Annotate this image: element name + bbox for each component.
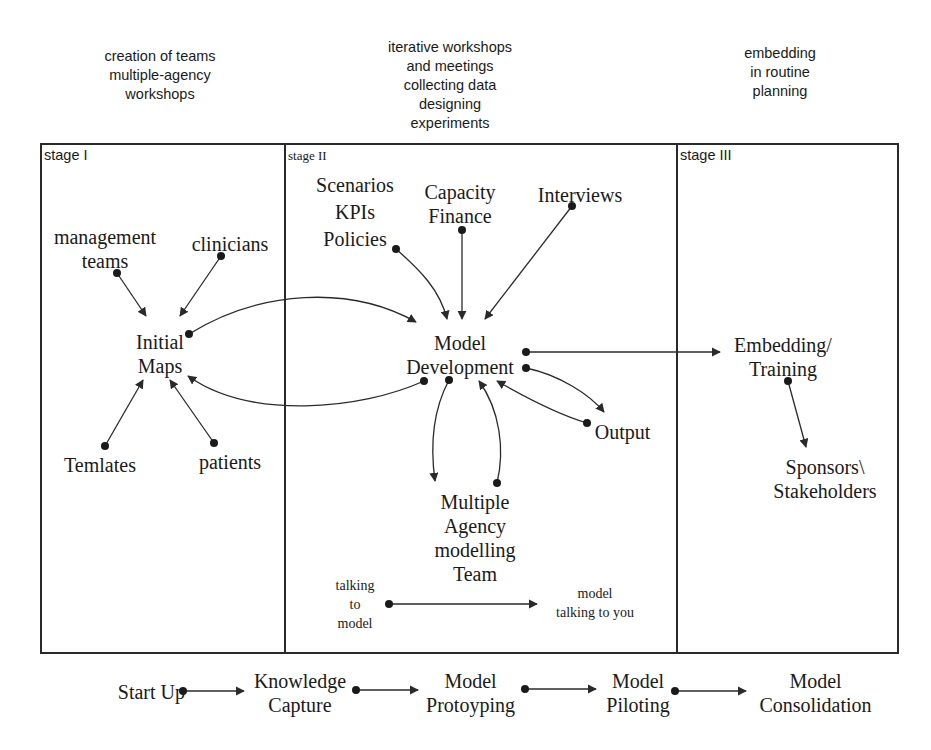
node-model-development: Model Development <box>395 331 525 379</box>
node-sponsors-stakeholders: Sponsors\ Stakeholders <box>755 455 895 503</box>
node-clinicians: clinicians <box>180 232 280 256</box>
node-embedding-training: Embedding/ Training <box>718 333 848 381</box>
phase-model-consolidation: Model Consolidation <box>748 669 883 717</box>
node-interviews: Interviews <box>525 183 635 207</box>
node-patients: patients <box>185 450 275 474</box>
node-multiple-agency-team: Multiple Agency modelling Team <box>415 490 535 586</box>
phase-start-up: Start Up <box>100 680 185 704</box>
model-talking-to-you-label: model talking to you <box>535 584 655 622</box>
phase-model-protoyping: Model Protoyping <box>418 669 523 717</box>
node-scenarios-kpis-policies: Scenarios KPIs Policies <box>300 172 410 253</box>
phase-model-piloting: Model Piloting <box>598 669 678 717</box>
node-capacity-finance: Capacity Finance <box>405 180 515 228</box>
node-initial-maps: Initial Maps <box>115 330 205 378</box>
talking-to-model-label: talking to model <box>325 576 385 633</box>
node-management-teams: management teams <box>40 225 170 273</box>
node-templates: Temlates <box>50 453 150 477</box>
process-diagram: creation of teams multiple-agency worksh… <box>0 0 931 750</box>
node-output: Output <box>585 420 660 444</box>
phase-knowledge-capture: Knowledge Capture <box>245 669 355 717</box>
